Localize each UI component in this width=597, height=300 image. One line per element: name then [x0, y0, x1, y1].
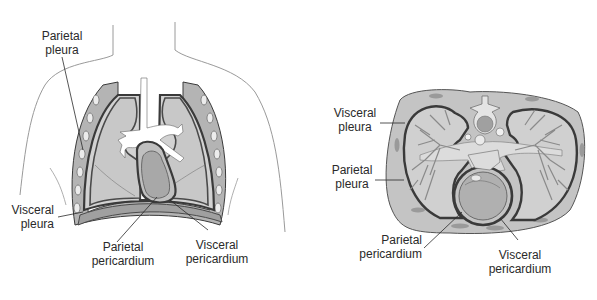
label-line: pericardium — [88, 254, 158, 268]
transverse-section-figure: Visceral pleura Parietal pleura Parietal… — [300, 0, 597, 300]
label-visceral-pericardium-transverse: Visceral pericardium — [485, 248, 555, 276]
label-line: pericardium — [182, 252, 252, 266]
label-visceral-pericardium-frontal: Visceral pericardium — [182, 238, 252, 266]
label-line: Parietal — [34, 29, 90, 43]
label-parietal-pericardium-frontal: Parietal pericardium — [88, 240, 158, 268]
label-line: Parietal — [352, 233, 422, 247]
label-line: pleura — [328, 177, 376, 191]
label-line: Visceral — [10, 203, 54, 217]
label-line: Visceral — [485, 248, 555, 262]
leader-line-parietal-pleura — [62, 57, 83, 150]
label-line: Parietal — [328, 163, 376, 177]
label-line: pleura — [34, 43, 90, 57]
label-parietal-pleura-frontal: Parietal pleura — [34, 29, 90, 57]
label-line: pleura — [10, 217, 54, 231]
label-parietal-pleura-transverse: Parietal pleura — [328, 163, 376, 191]
label-line: Parietal — [88, 240, 158, 254]
label-line: pericardium — [352, 247, 422, 261]
label-line: Visceral — [330, 106, 380, 120]
frontal-thorax-figure: Parietal pleura Visceral pleura Parietal… — [0, 0, 300, 300]
label-line: pericardium — [485, 262, 555, 276]
label-line: Visceral — [182, 238, 252, 252]
label-visceral-pleura-frontal: Visceral pleura — [10, 203, 54, 231]
label-visceral-pleura-transverse: Visceral pleura — [330, 106, 380, 134]
label-parietal-pericardium-transverse: Parietal pericardium — [352, 233, 422, 261]
label-line: pleura — [330, 120, 380, 134]
